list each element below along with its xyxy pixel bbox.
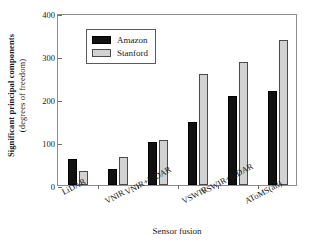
y-axis-tick: 200 <box>42 96 58 106</box>
x-axis-category-label: VNIR <box>103 187 126 206</box>
legend-item-stanford: Stanford <box>92 46 148 59</box>
plot-area: 0100200300400 Amazon Stanford <box>57 14 297 186</box>
bar-amazon-vswir <box>188 122 197 185</box>
y-axis-tick-label: 400 <box>42 10 58 20</box>
legend-label-stanford: Stanford <box>117 48 148 58</box>
y-axis-tick: 400 <box>42 10 58 20</box>
legend-swatch-stanford <box>92 49 111 57</box>
legend-item-amazon: Amazon <box>92 33 148 46</box>
y-axis-title: Significant principal components (degree… <box>0 0 34 190</box>
y-axis-tick-label: 200 <box>42 96 58 106</box>
bar-stanford-vswir <box>199 74 208 185</box>
y-axis-tick: 300 <box>42 53 58 63</box>
bar-stanford-vnir <box>119 157 128 185</box>
x-axis-title: Sensor fusion <box>57 226 297 236</box>
legend-label-amazon: Amazon <box>117 35 148 45</box>
y-axis-title-line1: Significant principal components <box>7 33 18 156</box>
bar-amazon-vnir <box>108 169 117 185</box>
legend-swatch-amazon <box>92 36 111 44</box>
x-axis-category-labels: LiDARVNIRVNIR+LiDARVSWIRVSWIR+LiDARAToMS… <box>57 186 297 226</box>
y-axis-tick-label: 300 <box>42 53 58 63</box>
bar-stanford-atoms-all <box>279 40 288 185</box>
chart-legend: Amazon Stanford <box>86 29 156 64</box>
y-axis-tick-mark <box>58 58 62 59</box>
y-axis-tick-mark <box>58 144 62 145</box>
bar-amazon-atoms-all <box>268 91 277 185</box>
y-axis-tick-mark <box>58 101 62 102</box>
bar-chart-figure: Significant principal components (degree… <box>0 0 310 244</box>
y-axis-title-line2: (degrees of freedom) <box>17 33 28 156</box>
y-axis-tick-mark <box>58 15 62 16</box>
y-axis-tick-label: 100 <box>42 139 58 149</box>
y-axis-tick: 100 <box>42 139 58 149</box>
